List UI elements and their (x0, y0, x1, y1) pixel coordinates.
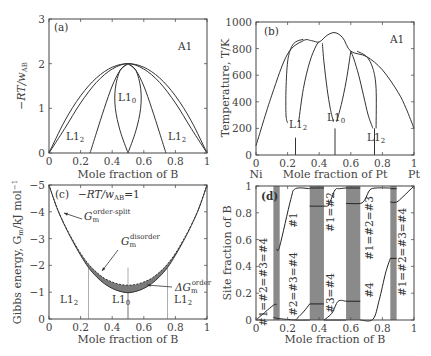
x-tick-label: 0 (46, 155, 53, 167)
y-tick-label: 2 (38, 58, 45, 70)
phase-boundary-curve (90, 64, 128, 153)
arrow-head-icon (64, 213, 68, 216)
panel-c-phase-l10: L10 (112, 293, 130, 307)
panel-d-label-site2-3-4: #2=#3=#4 (287, 252, 299, 316)
panel-d-ylabel: Site fraction of B (221, 206, 234, 301)
x-tick-label: 0.8 (167, 155, 184, 167)
y-tick-label: 0 (245, 314, 252, 326)
y-tick-label: 0 (38, 313, 45, 325)
panel-a-phase-l12-left: L12 (66, 130, 84, 144)
y-tick-label: 200 (232, 122, 252, 134)
y-tick-label: 3 (38, 13, 45, 25)
panel-c-xlabel: Mole fraction of B (78, 333, 179, 346)
y-tick-label: 400 (232, 96, 252, 108)
x-tick-label: 0 (46, 321, 53, 333)
panel-b-phase-a1: A1 (389, 33, 404, 45)
panel-b-ylabel: Temperature, T/K (219, 38, 232, 137)
y-tick-label: −4 (30, 206, 46, 218)
two-phase-band (346, 186, 360, 320)
y-tick-label: −3 (30, 233, 45, 245)
panel-c-condition: −RT/wAB=1 (78, 188, 140, 202)
panel-c-gibbs-energy: 00.20.40.60.810−1−2−3−4−5 (30, 179, 211, 333)
x-tick-label: 0.6 (135, 155, 152, 167)
panel-b-phase-l12-right: L12 (367, 131, 385, 145)
x-tick-label: 0.4 (104, 321, 121, 333)
panel-d-label-site1: #1 (287, 212, 299, 227)
annotation-arrow (147, 285, 172, 287)
x-tick-label: 1 (204, 155, 211, 167)
y-tick-label: 0.8 (235, 207, 252, 219)
two-phase-band (273, 186, 279, 320)
y-tick-label: 1 (245, 180, 252, 192)
panel-c-order-split-label: Gmorder-split (84, 208, 130, 224)
panel-b-xlabel: Mole fraction of Pt (283, 168, 388, 181)
panel-c-phase-l12-right: L12 (174, 293, 192, 307)
panel-b-label: (b) (264, 25, 279, 37)
y-tick-label: 0.6 (235, 234, 252, 246)
x-tick-label: 0.2 (72, 155, 89, 167)
y-tick-label: 0.4 (235, 260, 252, 272)
panel-d-label-all-equal-right: #1=#2=#3=#4 (396, 208, 408, 297)
panel-c-phase-l12-left: L12 (60, 293, 78, 307)
y-tick-label: 1 (38, 102, 45, 114)
x-tick-label: 1 (204, 321, 211, 333)
panel-d-label-all-equal-left: #1=#2=#3=#4 (257, 238, 269, 327)
panel-b-phase-l12-left: L12 (289, 118, 307, 132)
panel-a-phase-a1: A1 (177, 40, 192, 52)
panel-b-right-end-label: Pt (408, 168, 420, 181)
y-tick-label: −2 (30, 259, 45, 271)
annotation-arrow (102, 250, 118, 271)
phase-boundary-curve (299, 42, 320, 122)
panel-c-disorder-label: Gmdisorder (121, 233, 161, 249)
panel-b-phase-l10: L10 (327, 111, 345, 125)
x-tick-label: 0.6 (135, 321, 152, 333)
y-tick-label: −1 (30, 286, 45, 298)
y-tick-label: 800 (232, 43, 252, 55)
panel-c-label: (c) (55, 188, 69, 200)
panel-a-label: (a) (54, 21, 68, 33)
panel-b-ni-pt-phase-diagram: 00.20.40.60.8102004006008001000 (225, 16, 417, 169)
x-tick-label: 0.2 (72, 321, 89, 333)
panel-a-ylabel: −RT/wAB (15, 62, 29, 110)
x-tick-label: 0.8 (167, 321, 184, 333)
y-tick-label: 1000 (225, 16, 252, 28)
y-tick-label: 600 (232, 69, 252, 81)
phase-boundary-curve (357, 51, 376, 128)
phase-boundary-curve (128, 64, 166, 153)
figure: 00.20.40.60.810123 00.20.40.60.810200400… (0, 0, 431, 356)
y-tick-label: 0 (245, 149, 252, 161)
panel-a-phase-l10: L10 (118, 91, 136, 105)
panel-d-xlabel: Mole fraction of B (285, 333, 386, 346)
panel-d-label-site1-2: #1=#2 (324, 192, 336, 232)
y-tick-label: 0.2 (235, 287, 252, 299)
phase-boundary-curve (351, 51, 373, 128)
phase-boundary-curve (322, 43, 333, 121)
x-tick-label: 0.4 (104, 155, 121, 167)
panel-a-xlabel: Mole fraction of B (78, 168, 179, 181)
panel-a-phase-l12-right: L12 (168, 130, 186, 144)
x-tick-label: 1 (411, 322, 418, 334)
y-tick-label: 0 (38, 147, 45, 159)
panel-d-label: (d) (261, 190, 278, 202)
panel-d-label-site4: #4 (363, 282, 375, 298)
panel-c-ylabel: Gibbs energy, Gm/kJ mol−1 (11, 180, 25, 324)
y-tick-label: −5 (30, 179, 45, 191)
panel-d-label-site1-2-3: #1=#2=#3 (363, 196, 375, 260)
panel-d-label-site3-4: #3=#4 (324, 273, 336, 313)
panel-b-left-end-label: Ni (249, 168, 263, 181)
